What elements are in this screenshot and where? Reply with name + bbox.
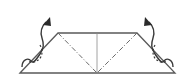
left-fold-arrow-icon xyxy=(22,17,51,67)
left-valley-fold xyxy=(58,33,97,73)
origami-diagram xyxy=(0,0,187,81)
right-valley-fold xyxy=(97,33,137,73)
right-fold-arrow-icon xyxy=(144,17,173,67)
paper-outline xyxy=(20,33,175,73)
